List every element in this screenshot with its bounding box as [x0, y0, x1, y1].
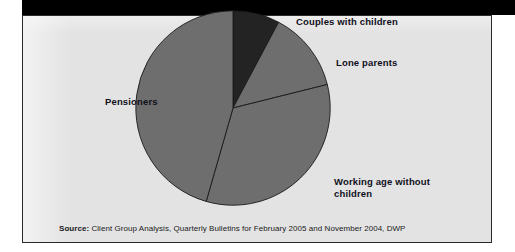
source-label: Source: — [59, 224, 89, 233]
pie-chart-svg — [135, 10, 331, 206]
source-text: Client Group Analysis, Quarterly Bulleti… — [89, 224, 405, 233]
pie-chart — [135, 10, 331, 206]
chart-figure: Couples with children Lone parents Pensi… — [0, 0, 515, 252]
source-note: Source: Client Group Analysis, Quarterly… — [59, 224, 405, 233]
pie-label-pensioners: Pensioners — [105, 96, 158, 108]
pie-label-lone-parents: Lone parents — [336, 57, 397, 69]
pie-label-couples-with-children: Couples with children — [296, 16, 398, 28]
pie-slice-group — [136, 11, 330, 205]
pie-label-working-age-without-children: Working age without children — [334, 176, 474, 199]
